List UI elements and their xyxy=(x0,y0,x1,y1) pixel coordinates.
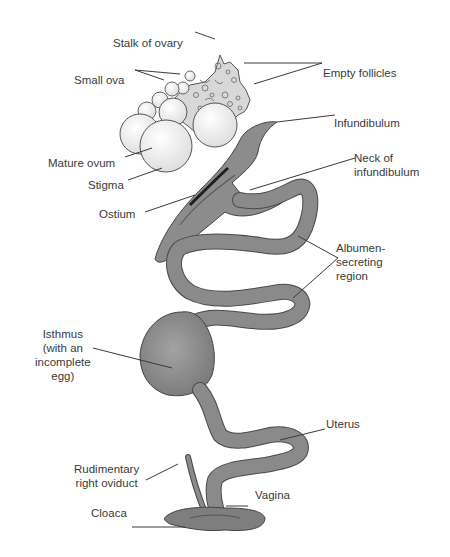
label-stigma: Stigma xyxy=(88,178,124,192)
label-albumen-secreting-region: Albumen- secreting region xyxy=(336,241,385,283)
label-cloaca: Cloaca xyxy=(91,506,127,520)
label-stalk-of-ovary: Stalk of ovary xyxy=(113,36,183,50)
label-neck-of-infundibulum: Neck of infundibulum xyxy=(354,151,419,179)
label-infundibulum: Infundibulum xyxy=(334,116,400,130)
label-uterus: Uterus xyxy=(326,417,360,431)
label-empty-follicles: Empty follicles xyxy=(323,66,397,80)
rudimentary-right-oviduct xyxy=(188,457,204,510)
label-vagina: Vagina xyxy=(255,488,290,502)
label-ostium: Ostium xyxy=(99,207,135,221)
label-isthmus: Isthmus (with an incomplete egg) xyxy=(35,327,91,383)
label-small-ova: Small ova xyxy=(74,73,125,87)
label-mature-ovum: Mature ovum xyxy=(48,156,115,170)
label-rudimentary-right-oviduct: Rudimentary right oviduct xyxy=(74,462,139,490)
mature-ova xyxy=(120,98,237,172)
